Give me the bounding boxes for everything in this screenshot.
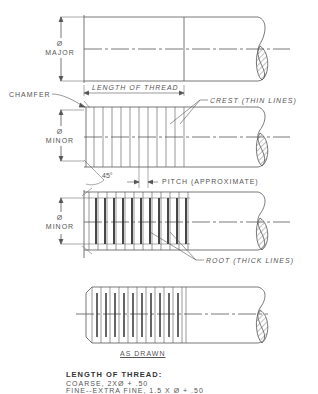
notes-heading: LENGTH OF THREAD:	[66, 371, 204, 379]
thread-drawing	[0, 0, 318, 394]
angle-label: 45°	[102, 172, 113, 179]
pitch-label: PITCH (APPROXIMATE)	[162, 178, 259, 185]
as-drawn-view	[76, 287, 268, 343]
major-dim-label: Ø MAJOR	[40, 40, 80, 56]
chamfer-label: CHAMFER	[9, 91, 51, 98]
root-label: ROOT (THICK LINES)	[206, 257, 294, 264]
thread-length-notes: LENGTH OF THREAD: COARSE, 2XØ + .50 FINE…	[66, 371, 204, 394]
minor-dim-label-1: Ø MINOR	[40, 128, 80, 144]
notes-fine: FINE--EXTRA FINE, 1.5 X Ø + .50	[66, 387, 204, 394]
as-drawn-caption: AS DRAWN	[120, 350, 165, 357]
notes-coarse: COARSE, 2XØ + .50	[66, 380, 204, 387]
minor-dim-label-2: Ø MINOR	[40, 214, 80, 230]
length-of-thread-label: LENGTH OF THREAD	[92, 84, 179, 91]
major-diameter-view	[59, 15, 290, 83]
root-view	[59, 188, 290, 260]
crest-view	[52, 94, 290, 188]
crest-label: CREST (THIN LINES)	[210, 97, 297, 104]
